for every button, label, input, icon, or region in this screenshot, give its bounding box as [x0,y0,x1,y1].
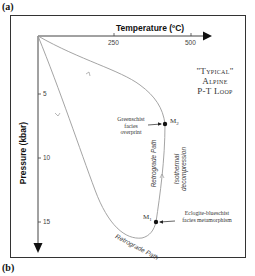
point-m2 [163,122,167,126]
eclogite-annotation: Eclogite-blueschist facies metamorphism [176,210,238,223]
x-tick-500: 500 [185,39,196,46]
prograde-path [38,36,156,238]
x-axis-arrow-icon [203,32,212,41]
upper-retrograde-path [38,36,165,124]
y-axis-arrow-icon [34,243,43,253]
y-tick-10: 10 [43,154,50,161]
retrograde-path-label-vertical: Retrograde Path [150,140,157,188]
isothermal-decompression-label: Isothermal decompression [173,147,187,191]
m2-label: M2 [170,117,179,126]
point-m1 [154,220,158,224]
pt-loop-diagram [0,0,255,276]
greenschist-annotation: Greenschist facies overprint [112,116,150,136]
y-axis-title: Pressure (kbar) [18,122,28,184]
y-tick-5: 5 [43,90,47,97]
m1-label: M1 [143,213,152,222]
diagram-title: "Typical" Alpine P-T Loop [190,66,240,96]
panel-label-b: (b) [2,262,14,273]
x-tick-250: 250 [108,39,119,46]
y-tick-15: 15 [43,218,50,225]
x-axis-title: Temperature (ºC) [116,23,184,33]
